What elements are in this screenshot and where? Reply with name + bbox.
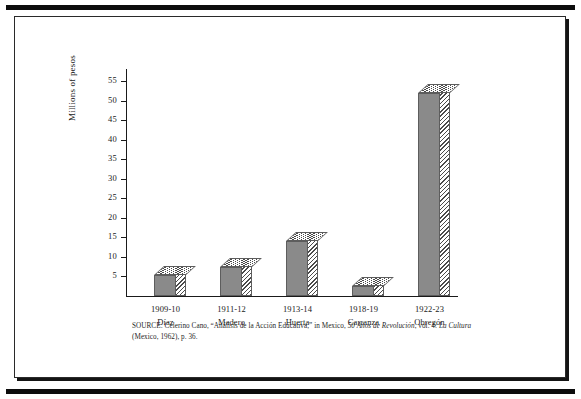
y-tick-label: 10 bbox=[108, 251, 117, 261]
y-tick-10: 10 bbox=[121, 257, 126, 258]
y-tick-45: 45 bbox=[121, 120, 126, 121]
bar-top-face bbox=[220, 258, 262, 267]
y-tick-20: 20 bbox=[121, 218, 126, 219]
bar-díaz bbox=[154, 266, 186, 297]
bar-madero bbox=[220, 258, 252, 296]
bar-side-face bbox=[440, 88, 450, 296]
y-tick-25: 25 bbox=[121, 198, 126, 199]
y-tick-50: 50 bbox=[121, 101, 126, 102]
bar-column: 1909-10Díaz bbox=[154, 266, 186, 297]
bar-carranza bbox=[352, 277, 384, 296]
bar-front-face bbox=[154, 275, 176, 297]
x-label-years: 1911-12 bbox=[211, 303, 252, 315]
x-label-years: 1918-19 bbox=[343, 303, 384, 315]
bar-front-face bbox=[418, 93, 440, 296]
x-label-years: 1922-23 bbox=[409, 303, 450, 315]
y-tick-label: 25 bbox=[108, 192, 117, 202]
bar-column: 1911-12Madero bbox=[220, 258, 252, 296]
plot-area: 555045403530252015105 1909-10Díaz1911-12… bbox=[126, 57, 466, 297]
y-tick-label: 40 bbox=[108, 134, 117, 144]
y-tick-55: 55 bbox=[121, 81, 126, 82]
x-axis-line bbox=[126, 296, 458, 297]
y-tick-label: 45 bbox=[108, 114, 117, 124]
source-note: SOURCE: Celerino Cano, “Análisis de la A… bbox=[132, 321, 472, 343]
y-tick-label: 15 bbox=[108, 231, 117, 241]
x-label-years: 1913-14 bbox=[277, 303, 318, 315]
x-label-years: 1909-10 bbox=[145, 303, 186, 315]
y-tick-15: 15 bbox=[121, 237, 126, 238]
bar-top-face bbox=[352, 277, 394, 286]
bar-column: 1918-19Carranza bbox=[352, 277, 384, 296]
y-axis-line bbox=[126, 69, 127, 297]
page-canvas: Millions of pesos 555045403530252015105 … bbox=[0, 0, 581, 399]
source-note-mid: , vol. 4: bbox=[415, 322, 439, 330]
bar-column: 1913-14Huerta bbox=[286, 232, 318, 296]
y-tick-label: 5 bbox=[113, 270, 117, 280]
y-tick-label: 55 bbox=[108, 75, 117, 85]
source-note-title-2: La Cultura bbox=[439, 322, 471, 330]
page-top-rule bbox=[6, 5, 575, 10]
y-tick-30: 30 bbox=[121, 179, 126, 180]
bar-front-face bbox=[220, 267, 242, 296]
y-tick-label: 35 bbox=[108, 153, 117, 163]
source-note-title-1: 50 Años de Revolución bbox=[348, 322, 415, 330]
y-tick-label: 50 bbox=[108, 95, 117, 105]
bar-front-face bbox=[352, 286, 374, 296]
y-tick-5: 5 bbox=[121, 276, 126, 277]
bar-column: 1922-23Obregón bbox=[418, 84, 450, 296]
source-note-prefix: SOURCE: Celerino Cano, “Análisis de la A… bbox=[132, 322, 348, 330]
y-tick-35: 35 bbox=[121, 159, 126, 160]
bar-obregón bbox=[418, 84, 450, 296]
y-tick-label: 20 bbox=[108, 212, 117, 222]
y-tick-40: 40 bbox=[121, 140, 126, 141]
bar-huerta bbox=[286, 232, 318, 296]
source-note-end: (Mexico, 1962), p. 36. bbox=[132, 333, 198, 341]
bar-top-face bbox=[418, 84, 460, 93]
figure-frame: Millions of pesos 555045403530252015105 … bbox=[14, 16, 566, 378]
y-tick-label: 30 bbox=[108, 173, 117, 183]
bar-front-face bbox=[286, 241, 308, 296]
bar-top-face bbox=[286, 232, 328, 241]
bar-side-face bbox=[308, 236, 318, 296]
bar-top-face bbox=[154, 266, 196, 275]
page-bottom-rule bbox=[6, 389, 575, 394]
y-axis-title: Millions of pesos bbox=[67, 55, 77, 121]
